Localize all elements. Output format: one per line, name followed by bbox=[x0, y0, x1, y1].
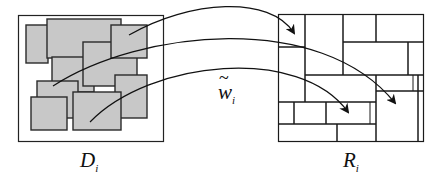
domain-label: Di bbox=[80, 148, 98, 174]
domain-box bbox=[19, 16, 164, 142]
domain-block bbox=[73, 92, 121, 130]
domain-block bbox=[31, 97, 67, 130]
domain-block bbox=[26, 25, 48, 63]
map-label: ~wi bbox=[218, 80, 235, 106]
range-label: Ri bbox=[343, 148, 359, 174]
